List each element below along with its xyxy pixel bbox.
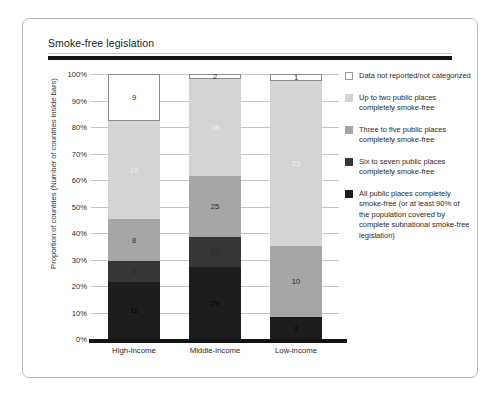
bar-segment: 4 [108, 261, 160, 282]
bar-segment: 25 [189, 176, 241, 238]
y-axis-tick-label: 80% [72, 123, 87, 132]
legend-label: Three to five public places completely s… [359, 125, 471, 146]
y-axis-tick-label: 0% [76, 335, 87, 344]
stacked-bar: 239251229 [189, 74, 241, 339]
plot-area: 0%10%20%30%40%50%60%70%80%90%100% 919841… [91, 74, 339, 339]
bar-segment: 1 [270, 74, 322, 81]
legend-item[interactable]: Up to two public places completely smoke… [345, 93, 471, 114]
bar-segment: 8 [108, 219, 160, 261]
bar-segment: 3 [270, 317, 322, 338]
y-axis-tick-label: 20% [72, 282, 87, 291]
bar-segment: 19 [108, 121, 160, 220]
stacked-bar: 9198411 [108, 74, 160, 339]
y-axis-title: Proportion of countries (Number of count… [49, 59, 58, 289]
y-axis-tick-label: 30% [72, 255, 87, 264]
legend-label: Six to seven public places completely sm… [359, 157, 471, 178]
legend-swatch-icon [345, 158, 353, 166]
legend-item[interactable]: Data not reported/not categorized [345, 71, 471, 82]
bar-segment: 23 [270, 81, 322, 246]
x-axis-line [89, 339, 347, 343]
legend-label: Up to two public places completely smoke… [359, 93, 471, 114]
bar-segment: 11 [108, 282, 160, 339]
y-axis-tick-label: 70% [72, 149, 87, 158]
y-axis-tick-label: 90% [72, 96, 87, 105]
legend-item[interactable]: All public places completely smoke-free … [345, 189, 471, 242]
y-axis-tick-label: 40% [72, 229, 87, 238]
bar-segment: 10 [270, 246, 322, 318]
legend-label: All public places completely smoke-free … [359, 189, 471, 242]
legend-item[interactable]: Six to seven public places completely sm… [345, 157, 471, 178]
stacked-bar: 123103 [270, 74, 322, 339]
y-axis-tick-label: 100% [68, 70, 87, 79]
legend-item[interactable]: Three to five public places completely s… [345, 125, 471, 146]
legend-swatch-icon [345, 72, 353, 80]
legend-swatch-icon [345, 94, 353, 102]
x-axis-tick-label: Low-income [241, 346, 351, 355]
bar-segment: 12 [189, 237, 241, 267]
legend-swatch-icon [345, 126, 353, 134]
y-axis-tick-label: 60% [72, 176, 87, 185]
chart-legend: Data not reported/not categorizedUp to t… [345, 71, 471, 252]
legend-swatch-icon [345, 190, 353, 198]
bar-segment: 29 [189, 267, 241, 339]
legend-label: Data not reported/not categorized [359, 71, 471, 82]
y-axis-tick-label: 50% [72, 202, 87, 211]
chart-panel: Smoke-free legislation Proportion of cou… [22, 18, 478, 378]
bar-segment: 9 [108, 74, 160, 121]
y-axis-tick-label: 10% [72, 308, 87, 317]
bar-segment: 39 [189, 79, 241, 176]
